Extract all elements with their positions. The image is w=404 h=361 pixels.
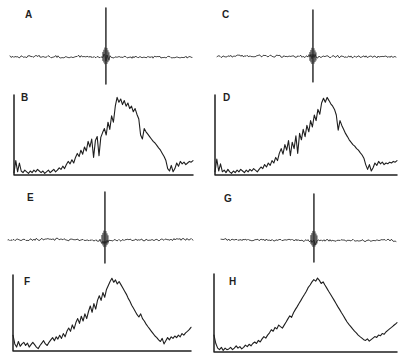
panel-label-c: C <box>222 10 230 20</box>
panel-label-b: B <box>21 93 29 103</box>
multi-panel-figure: A B C D E F G H <box>0 0 404 361</box>
panel-label-h: H <box>229 277 237 287</box>
panel-label-d: D <box>223 93 231 103</box>
panel-label-e: E <box>27 193 34 203</box>
figure-canvas <box>0 0 404 361</box>
panel-label-f: F <box>24 277 31 287</box>
panel-label-g: G <box>224 194 232 204</box>
panel-label-a: A <box>25 10 33 20</box>
